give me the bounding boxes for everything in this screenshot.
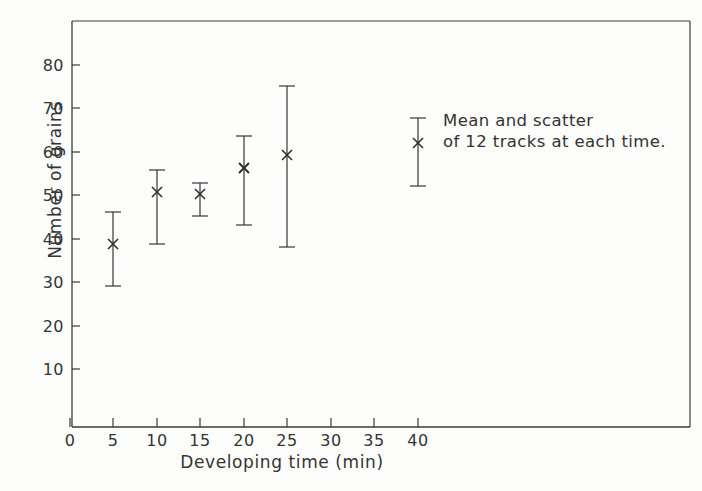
- y-tick-label-30: 30: [22, 273, 64, 292]
- axis-frame: [72, 21, 690, 427]
- data-point-10min: [149, 170, 165, 244]
- data-point-25min: [279, 86, 295, 247]
- annotation-line-1: Mean and scatter: [443, 110, 666, 131]
- y-axis-ticks: [72, 65, 80, 369]
- x-tick-label-35: 35: [363, 431, 384, 450]
- y-tick-label-10: 10: [22, 360, 64, 379]
- data-point-40min: [410, 118, 426, 186]
- x-tick-label-10: 10: [146, 431, 167, 450]
- data-point-20min: [236, 136, 252, 225]
- y-tick-label-20: 20: [22, 317, 64, 336]
- figure-container: 80 70 60 50 40 30 20 10 0 5 10 15 20 25 …: [0, 0, 702, 491]
- data-series: [105, 86, 426, 286]
- x-axis-ticks: [70, 418, 418, 427]
- x-tick-label-30: 30: [320, 431, 341, 450]
- x-tick-label-20: 20: [233, 431, 254, 450]
- x-tick-label-25: 25: [276, 431, 297, 450]
- data-point-15min: [192, 183, 208, 216]
- data-point-5min: [105, 212, 121, 286]
- y-axis-label: Number of grains: [45, 85, 65, 275]
- annotation-line-2: of 12 tracks at each time.: [443, 131, 666, 152]
- chart-canvas: [0, 0, 702, 491]
- x-tick-label-0: 0: [65, 431, 76, 450]
- x-axis-label: Developing time (min): [132, 452, 432, 472]
- x-tick-label-15: 15: [189, 431, 210, 450]
- chart-annotation: Mean and scatter of 12 tracks at each ti…: [443, 110, 666, 152]
- x-tick-label-40: 40: [407, 431, 428, 450]
- y-tick-label-80: 80: [22, 56, 64, 75]
- x-tick-label-5: 5: [108, 431, 119, 450]
